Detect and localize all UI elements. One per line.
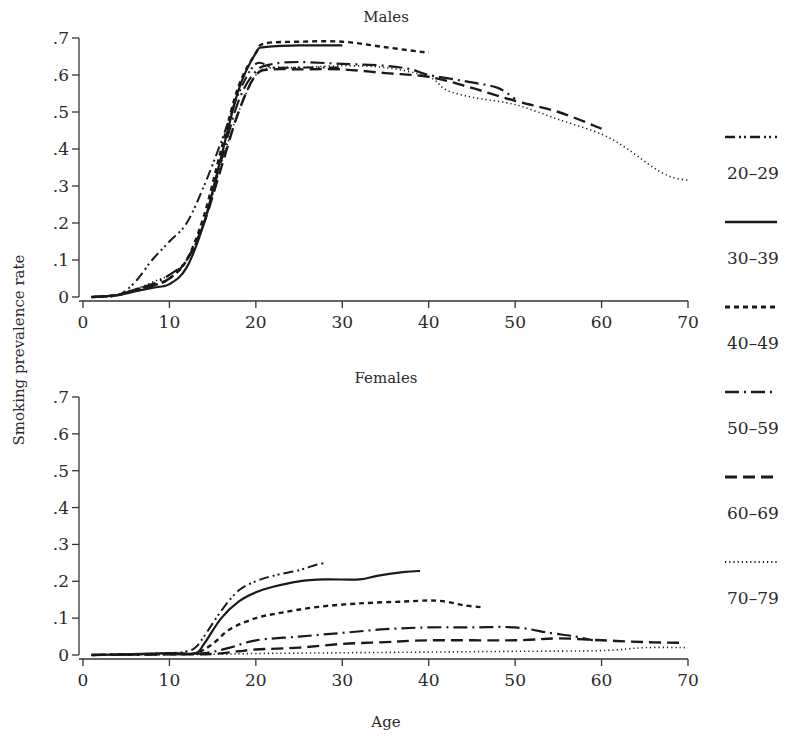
males-series-30-39 — [92, 45, 343, 297]
legend-label: 40–49 — [727, 333, 779, 353]
legend-label: 60–69 — [727, 503, 779, 523]
legend-label: 20–29 — [727, 163, 779, 183]
y-tick-label: .4 — [53, 498, 69, 518]
females-series-20-29 — [92, 563, 325, 655]
y-tick-label: .1 — [53, 250, 69, 270]
legend: 20–2930–3940–4950–5960–6970–79 — [725, 137, 779, 608]
legend-label: 30–39 — [727, 248, 779, 268]
x-tick-label: 10 — [159, 670, 181, 690]
y-tick-label: .1 — [53, 608, 69, 628]
females-panel-title: Females — [354, 369, 417, 387]
y-tick-label: .2 — [53, 213, 69, 233]
x-tick-label: 20 — [245, 670, 267, 690]
y-axis-label: Smoking prevalence rate — [10, 254, 28, 445]
x-tick-label: 60 — [591, 670, 613, 690]
x-tick-label: 0 — [78, 312, 89, 332]
y-tick-label: 0 — [58, 287, 69, 307]
y-tick-label: .6 — [53, 424, 69, 444]
x-tick-label: 30 — [331, 670, 353, 690]
y-tick-label: 0 — [58, 645, 69, 665]
x-tick-label: 0 — [78, 670, 89, 690]
x-tick-label: 60 — [591, 312, 613, 332]
x-tick-label: 40 — [418, 670, 440, 690]
legend-label: 50–59 — [727, 418, 779, 438]
males-series-50-59 — [92, 62, 515, 297]
x-tick-label: 50 — [504, 312, 526, 332]
females-panel: 0.1.2.3.4.5.6.7010203040506070 — [53, 387, 699, 690]
y-tick-label: .7 — [53, 387, 69, 407]
x-tick-label: 30 — [331, 312, 353, 332]
x-tick-label: 10 — [159, 312, 181, 332]
females-series-70-79 — [92, 647, 688, 655]
females-series-50-59 — [92, 627, 593, 655]
x-tick-label: 20 — [245, 312, 267, 332]
males-panel-title: Males — [363, 8, 409, 26]
x-tick-label: 40 — [418, 312, 440, 332]
males-series-60-69 — [92, 69, 602, 297]
males-series-40-49 — [92, 41, 429, 297]
x-axis-label: Age — [370, 713, 400, 731]
y-tick-label: .3 — [53, 176, 69, 196]
y-tick-label: .2 — [53, 571, 69, 591]
x-tick-label: 70 — [677, 312, 699, 332]
y-tick-label: .5 — [53, 102, 69, 122]
legend-label: 70–79 — [727, 588, 779, 608]
y-tick-label: .4 — [53, 139, 69, 159]
y-tick-label: .7 — [53, 28, 69, 48]
chart-canvas: Males Females Smoking prevalence rate Ag… — [0, 0, 797, 741]
y-tick-label: .6 — [53, 65, 69, 85]
y-tick-label: .5 — [53, 461, 69, 481]
males-panel: 0.1.2.3.4.5.6.7010203040506070 — [53, 28, 699, 332]
males-series-70-79 — [92, 66, 688, 297]
x-tick-label: 50 — [504, 670, 526, 690]
y-tick-label: .3 — [53, 534, 69, 554]
x-tick-label: 70 — [677, 670, 699, 690]
